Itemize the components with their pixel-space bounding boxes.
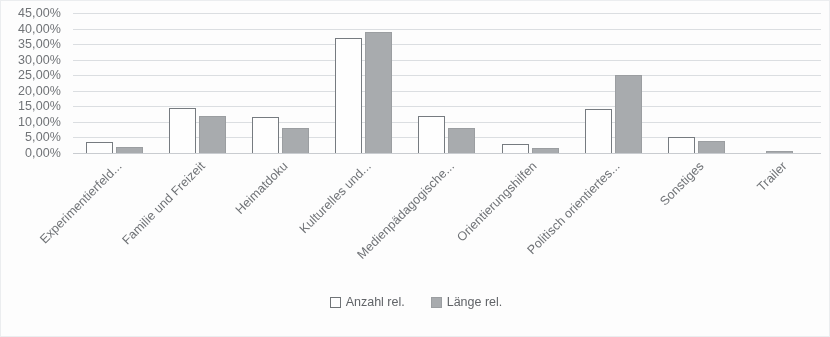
y-axis-tick-label: 40,00% bbox=[18, 21, 61, 35]
legend-swatch-icon bbox=[330, 297, 341, 308]
x-axis-tick-label: Sonstiges bbox=[657, 159, 706, 208]
legend-swatch-icon bbox=[431, 297, 442, 308]
bar-laenge-rel bbox=[448, 128, 475, 153]
bar-laenge-rel bbox=[116, 147, 143, 153]
y-axis-tick-label: 45,00% bbox=[18, 6, 61, 20]
bar-laenge-rel bbox=[282, 128, 309, 153]
y-axis-tick-label: 20,00% bbox=[18, 83, 61, 97]
bar-group bbox=[655, 13, 738, 153]
y-axis-tick-label: 15,00% bbox=[18, 99, 61, 113]
bar-group bbox=[322, 13, 405, 153]
y-axis-tick-label: 0,00% bbox=[25, 146, 61, 160]
x-axis-label-slot: Sonstiges bbox=[655, 155, 738, 275]
y-axis-tick-label: 30,00% bbox=[18, 52, 61, 66]
axis-baseline bbox=[73, 153, 821, 154]
bar-anzahl-rel bbox=[252, 117, 279, 153]
x-axis-label-slot: Trailer bbox=[738, 155, 821, 275]
bar-laenge-rel bbox=[532, 148, 559, 153]
bar-anzahl-rel bbox=[335, 38, 362, 153]
legend-item-label: Anzahl rel. bbox=[346, 295, 405, 309]
x-axis: Experimentierfeld...Familie und Freizeit… bbox=[73, 155, 821, 275]
bar-anzahl-rel bbox=[502, 144, 529, 153]
bar-laenge-rel bbox=[199, 116, 226, 153]
x-axis-tick-label: Heimatdoku bbox=[233, 159, 291, 217]
bar-anzahl-rel bbox=[585, 109, 612, 153]
chart-legend: Anzahl rel.Länge rel. bbox=[1, 295, 830, 309]
bar-anzahl-rel bbox=[668, 137, 695, 153]
bar-laenge-rel bbox=[698, 141, 725, 153]
bar-anzahl-rel bbox=[418, 116, 445, 153]
bar-group bbox=[239, 13, 322, 153]
x-axis-tick-label: Trailer bbox=[754, 159, 789, 194]
y-axis-tick-label: 35,00% bbox=[18, 37, 61, 51]
chart-container: 45,00%40,00%35,00%30,00%25,00%20,00%15,0… bbox=[0, 0, 830, 337]
bar-group bbox=[738, 13, 821, 153]
legend-item-label: Länge rel. bbox=[447, 295, 503, 309]
bar-group bbox=[572, 13, 655, 153]
y-axis-tick-label: 25,00% bbox=[18, 68, 61, 82]
legend-item[interactable]: Länge rel. bbox=[431, 295, 503, 309]
bar-group bbox=[156, 13, 239, 153]
bar-laenge-rel bbox=[365, 32, 392, 153]
bar-anzahl-rel bbox=[86, 142, 113, 153]
bar-group bbox=[405, 13, 488, 153]
bars-layer bbox=[73, 13, 821, 153]
x-axis-label-slot: Politisch orientiertes... bbox=[572, 155, 655, 275]
x-axis-tick-label: Experimentierfeld... bbox=[37, 159, 124, 246]
bar-group bbox=[73, 13, 156, 153]
bar-laenge-rel bbox=[615, 75, 642, 153]
y-axis-tick-label: 5,00% bbox=[25, 130, 61, 144]
bar-group bbox=[489, 13, 572, 153]
legend-item[interactable]: Anzahl rel. bbox=[330, 295, 405, 309]
bar-anzahl-rel bbox=[169, 108, 196, 153]
bar-laenge-rel bbox=[766, 151, 793, 153]
y-axis-tick-label: 10,00% bbox=[18, 115, 61, 129]
x-axis-label-slot: Familie und Freizeit bbox=[156, 155, 239, 275]
y-axis: 45,00%40,00%35,00%30,00%25,00%20,00%15,0… bbox=[1, 13, 67, 153]
